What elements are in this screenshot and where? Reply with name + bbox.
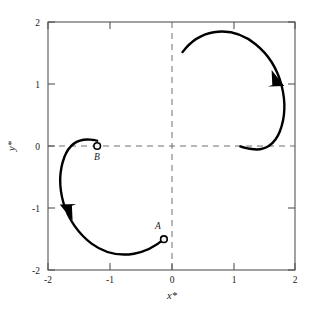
phase-plane-figure: -2 -1 0 1 2 2 1 0 -1 -2 x* y* A B xyxy=(0,0,313,318)
y-tick-label-0: 2 xyxy=(35,18,40,28)
point-b-marker xyxy=(94,143,101,150)
x-tick-label-3: 1 xyxy=(232,275,237,285)
y-tick-label-1: 1 xyxy=(35,80,40,90)
x-tick-label-0: -2 xyxy=(44,275,52,285)
trajectory-plot-svg: -2 -1 0 1 2 2 1 0 -1 -2 x* y* A B xyxy=(0,0,313,318)
x-tick-label-2: 0 xyxy=(170,275,175,285)
x-tick-label-1: -1 xyxy=(106,275,114,285)
point-a-label: A xyxy=(154,221,161,231)
y-tick-label-3: -1 xyxy=(32,204,40,214)
point-a-marker xyxy=(161,236,168,243)
point-b-label: B xyxy=(94,152,100,162)
x-tick-label-4: 2 xyxy=(293,275,298,285)
y-tick-label-4: -2 xyxy=(32,266,40,276)
y-tick-label-2: 0 xyxy=(35,142,40,152)
x-axis-title: x* xyxy=(166,290,178,301)
y-axis-title: y* xyxy=(6,140,17,152)
